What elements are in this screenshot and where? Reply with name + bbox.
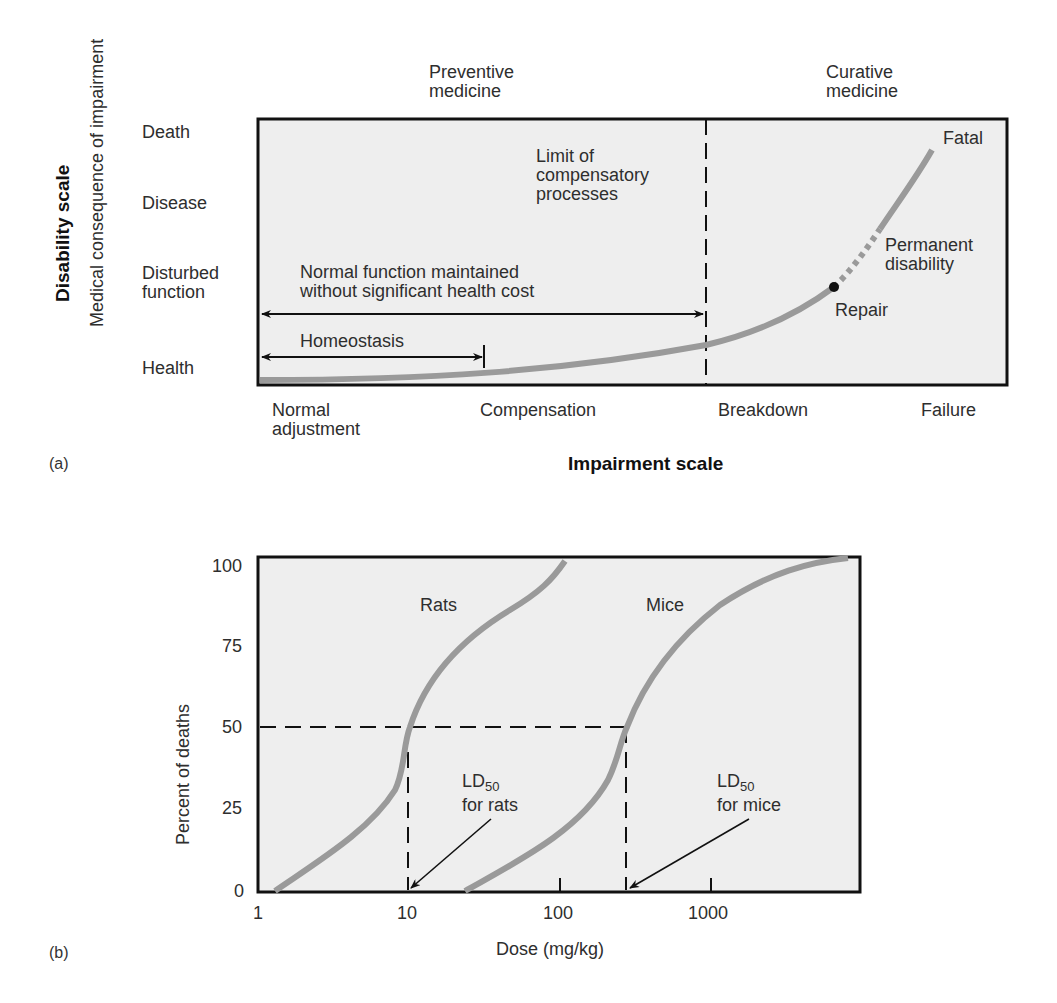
x-level-failure: Failure xyxy=(921,401,976,420)
rats-series-label: Rats xyxy=(420,596,457,615)
impairment-scale-title: Impairment scale xyxy=(568,454,723,473)
mice-series-label: Mice xyxy=(646,596,684,615)
y-level-disturbed-function: Disturbed function xyxy=(142,264,219,302)
x-tick-1: 1 xyxy=(253,904,263,923)
normal-function-label: Normal function maintained without signi… xyxy=(300,263,534,301)
x-tick-100: 100 xyxy=(543,904,573,923)
curative-medicine-label: Curative medicine xyxy=(826,63,898,101)
ld50-prefix: LD xyxy=(717,771,740,791)
figure-graphics xyxy=(0,0,1057,1003)
preventive-medicine-label: Preventive medicine xyxy=(429,63,514,101)
y-tick-0: 0 xyxy=(234,882,244,901)
dose-axis-title: Dose (mg/kg) xyxy=(496,940,604,959)
homeostasis-label: Homeostasis xyxy=(300,332,404,351)
permanent-disability-label: Permanent disability xyxy=(885,236,973,274)
y-tick-25: 25 xyxy=(222,799,242,818)
disability-scale-title: Disability scale xyxy=(53,165,72,302)
ld50-subscript: 50 xyxy=(740,779,754,794)
y-level-death: Death xyxy=(142,123,190,142)
fatal-label: Fatal xyxy=(943,129,983,148)
x-tick-10: 10 xyxy=(397,904,417,923)
panel-a-tag: (a) xyxy=(49,454,69,473)
ld50-mice-label: LD50for mice xyxy=(717,772,781,815)
x-level-compensation: Compensation xyxy=(480,401,596,420)
x-level-normal-adjustment: Normal adjustment xyxy=(272,401,360,439)
x-tick-1000: 1000 xyxy=(688,904,728,923)
panel-b-plot xyxy=(258,557,860,892)
y-level-disease: Disease xyxy=(142,194,207,213)
repair-label: Repair xyxy=(835,301,888,320)
y-tick-75: 75 xyxy=(222,637,242,656)
y-level-health: Health xyxy=(142,359,194,378)
y-tick-100: 100 xyxy=(212,557,242,576)
ld50-rats-label: LD50for rats xyxy=(462,772,518,815)
panel-b-tag: (b) xyxy=(49,943,69,962)
ld50-rats-text: for rats xyxy=(462,795,518,815)
limit-compensatory-label: Limit of compensatory processes xyxy=(536,147,649,204)
ld50-subscript: 50 xyxy=(485,779,499,794)
ld50-prefix: LD xyxy=(462,771,485,791)
x-level-breakdown: Breakdown xyxy=(718,401,808,420)
disability-scale-subtitle: Medical consequence of impairment xyxy=(88,39,107,327)
y-tick-50: 50 xyxy=(222,718,242,737)
ld50-mice-text: for mice xyxy=(717,795,781,815)
percent-deaths-axis-title: Percent of deaths xyxy=(174,704,193,845)
